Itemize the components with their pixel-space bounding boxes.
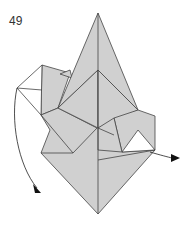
arrowhead-left-icon — [33, 184, 41, 193]
origami-diagram — [0, 0, 191, 225]
arrowhead-right-icon — [171, 154, 180, 162]
right-pull-arrow — [150, 152, 172, 158]
